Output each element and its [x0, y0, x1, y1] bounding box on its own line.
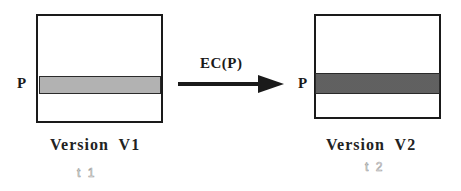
version-v2-box: [314, 14, 441, 119]
version-v1-row-p-band: [39, 76, 161, 94]
version-v2-row-p-band: [315, 73, 440, 94]
version-v2-caption: Version V2: [326, 136, 416, 154]
version-v1-caption: Version V1: [50, 136, 140, 154]
version-v1-box: [36, 14, 163, 123]
version-v1-time: t 1: [77, 166, 96, 180]
arrow-right-icon: [170, 72, 290, 96]
version-v2-time: t 2: [365, 160, 384, 174]
version-v2-row-label: P: [298, 75, 307, 92]
version-v1-row-label: P: [17, 75, 26, 92]
transition-label: EC(P): [200, 55, 243, 72]
